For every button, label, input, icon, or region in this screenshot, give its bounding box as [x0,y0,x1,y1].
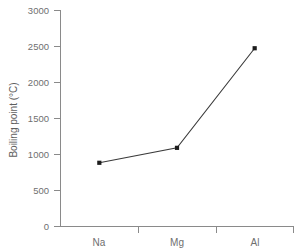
data-point-mg [175,146,179,150]
y-tick-label-1500: 1500 [28,113,49,124]
y-axis-title: Boiling point (°C) [8,82,19,157]
y-tick-label-500: 500 [33,185,49,196]
series-markers [97,46,257,165]
y-tick-label-1000: 1000 [28,149,49,160]
x-tick-label-al: Al [251,237,260,248]
chart-figure: Boiling point (°C) 3000 2500 2000 1500 1… [0,0,298,252]
x-tick-label-mg: Mg [170,237,184,248]
data-point-na [97,161,101,165]
y-tick-label-0: 0 [44,221,49,232]
series-line-boiling-point [99,48,254,163]
y-tick-label-2500: 2500 [28,41,49,52]
x-tick-label-na: Na [93,237,106,248]
y-tick-label-2000: 2000 [28,77,49,88]
line-chart: Boiling point (°C) 3000 2500 2000 1500 1… [0,0,298,252]
data-point-al [253,46,257,50]
y-tick-label-3000: 3000 [28,5,49,16]
